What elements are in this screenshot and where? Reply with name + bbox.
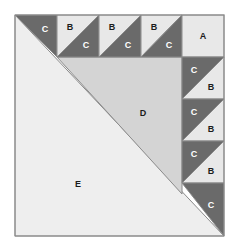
right-cell-4-label-b: B <box>208 166 215 176</box>
top-cell-5-square-a: A <box>182 15 224 57</box>
right-cell-2-label-c: C <box>191 65 198 75</box>
piece-e-label: E <box>75 179 81 189</box>
quilt-diagram-svg: C B C B C B C A <box>0 0 239 252</box>
top-cell-4-label-b: B <box>151 22 158 32</box>
top-cell-2-label-b: B <box>67 22 74 32</box>
top-cell-2-label-c: C <box>83 40 90 50</box>
right-cell-4-label-c: C <box>191 149 198 159</box>
top-cell-4: B C <box>141 15 182 57</box>
top-cell-2: B C <box>57 15 99 57</box>
quilt-block-diagram: C B C B C B C A <box>0 0 239 252</box>
right-cell-2-label-b: B <box>208 82 215 92</box>
right-cell-5-label-c: C <box>208 200 215 210</box>
right-cell-3-label-b: B <box>208 124 215 134</box>
piece-d-label: D <box>140 108 147 118</box>
right-cell-4: C B <box>182 141 224 183</box>
top-cell-4-label-c: C <box>166 40 173 50</box>
piece-a-label: A <box>200 31 207 41</box>
right-cell-2: C B <box>182 57 224 99</box>
right-cell-3-label-c: C <box>191 107 198 117</box>
top-cell-1-label-c: C <box>42 24 49 34</box>
top-cell-3-label-b: B <box>109 22 116 32</box>
top-cell-3: B C <box>99 15 141 57</box>
top-cell-3-label-c: C <box>125 40 132 50</box>
right-cell-3: C B <box>182 99 224 141</box>
